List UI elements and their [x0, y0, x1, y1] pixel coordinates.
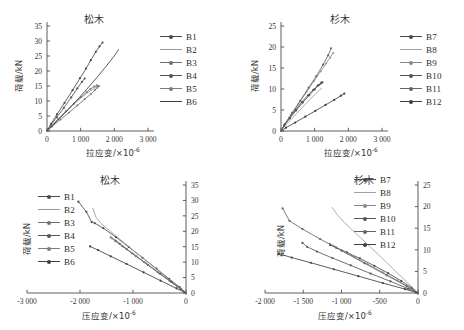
series-marker-B12	[285, 127, 287, 129]
y-tick-label: 25	[191, 212, 199, 221]
legend-item-B2[interactable]: B2	[160, 43, 197, 56]
series-marker-B10	[369, 272, 371, 274]
series-marker-B6	[97, 249, 99, 251]
legend-swatch-icon-B11	[400, 84, 422, 93]
legend-item-B5[interactable]: B5	[160, 82, 197, 95]
y-tick-label: 15	[423, 224, 431, 233]
series-marker-B4	[84, 77, 86, 79]
legend-item-B4[interactable]: B4	[160, 69, 197, 82]
y-tick-label: 0	[272, 127, 276, 136]
y-tick-label: 30	[34, 37, 42, 46]
legend-bottom-right: B7B8B9B10B11B12	[354, 173, 396, 251]
series-marker-B12	[357, 275, 359, 277]
legend-item-B10[interactable]: B10	[354, 212, 396, 225]
series-marker-B9	[325, 62, 327, 64]
y-tick-label: 20	[34, 67, 42, 76]
y-tick-label: 30	[191, 196, 199, 205]
series-marker-B1	[63, 102, 65, 104]
legend-label: B3	[64, 218, 75, 228]
series-marker-B3	[60, 119, 62, 121]
series-marker-B1	[85, 211, 87, 213]
legend-swatch-icon-B4	[160, 71, 182, 80]
legend-item-B11[interactable]: B11	[354, 225, 396, 238]
plot-area-bottom-right: -2 000-1 500-1 000-50000510152025	[232, 165, 464, 330]
y-tick-label: 35	[191, 181, 199, 190]
series-marker-B5	[86, 91, 88, 93]
y-axis-label-top-left: 荷载/kN	[12, 60, 24, 92]
series-marker-B1	[102, 227, 104, 229]
legend-item-B9[interactable]: B9	[400, 56, 442, 69]
x-axis-label-text: 压应变/×10	[318, 311, 366, 321]
x-axis-label-bottom-right: 压应变/×10-6	[318, 309, 372, 321]
legend-item-B4[interactable]: B4	[38, 229, 75, 242]
x-axis-label-exponent: -6	[366, 309, 372, 316]
series-marker-B3	[90, 93, 92, 95]
legend-swatch-icon-B2	[38, 205, 60, 214]
legend-swatch-icon-B3	[160, 58, 182, 67]
legend-item-B12[interactable]: B12	[400, 95, 442, 108]
series-marker-B4	[81, 81, 83, 83]
series-marker-B6	[126, 263, 128, 265]
legend-label: B9	[380, 201, 391, 211]
legend-item-B1[interactable]: B1	[38, 190, 75, 203]
legend-item-B12[interactable]: B12	[354, 238, 396, 251]
legend-item-B8[interactable]: B8	[400, 43, 442, 56]
series-line-B8	[281, 88, 322, 131]
series-marker-B5	[143, 261, 145, 263]
x-axis-label-top-left: 拉应变/×10-6	[86, 146, 140, 158]
legend-item-B6[interactable]: B6	[160, 95, 197, 108]
x-tick-label: 0	[45, 135, 49, 144]
series-marker-B10	[316, 250, 318, 252]
legend-swatch-icon-B9	[400, 58, 422, 67]
x-tick-label: 0	[184, 297, 188, 306]
legend-item-B1[interactable]: B1	[160, 30, 197, 43]
series-marker-B12	[324, 104, 326, 106]
legend-item-B5[interactable]: B5	[38, 242, 75, 255]
series-marker-B1	[79, 77, 81, 79]
series-marker-B1	[91, 221, 93, 223]
legend-label: B12	[380, 240, 396, 250]
x-tick-label: -2 000	[255, 297, 275, 306]
x-axis-label-exponent: -6	[130, 309, 136, 316]
legend-item-B8[interactable]: B8	[354, 186, 396, 199]
series-line-B12	[279, 254, 418, 293]
legend-label: B8	[380, 188, 391, 198]
legend-item-B11[interactable]: B11	[400, 82, 442, 95]
series-line-B2	[93, 208, 186, 293]
series-marker-B11	[291, 112, 293, 114]
legend-item-B7[interactable]: B7	[400, 30, 442, 43]
legend-item-B2[interactable]: B2	[38, 203, 75, 216]
x-tick-label: 2 000	[106, 135, 123, 144]
x-tick-label: 2 000	[340, 135, 357, 144]
legend-item-B6[interactable]: B6	[38, 255, 75, 268]
series-marker-B12	[310, 262, 312, 264]
legend-item-B3[interactable]: B3	[160, 56, 197, 69]
series-marker-B7	[400, 280, 402, 282]
legend-item-B10[interactable]: B10	[400, 69, 442, 82]
legend-item-B7[interactable]: B7	[354, 173, 396, 186]
series-marker-B1	[85, 68, 87, 70]
legend-swatch-icon-B3	[38, 218, 60, 227]
series-marker-B4	[56, 116, 58, 118]
series-marker-B6	[143, 271, 145, 273]
plot-area-bottom-left: -3 000-2 000-1 000005101520253035	[0, 165, 232, 330]
y-tick-label: 10	[423, 246, 431, 255]
y-tick-label: 5	[272, 106, 276, 115]
legend-label: B4	[186, 71, 197, 81]
x-tick-label: -3 000	[17, 297, 37, 306]
legend-item-B9[interactable]: B9	[354, 199, 396, 212]
series-marker-B10	[306, 246, 308, 248]
series-marker-B3	[98, 85, 100, 87]
series-marker-B5	[93, 86, 95, 88]
series-marker-B1	[95, 51, 97, 53]
series-marker-B11	[322, 64, 324, 66]
x-axis-label-text: 压应变/×10	[82, 311, 130, 321]
series-marker-B11	[299, 100, 301, 102]
chart-panel-bottom-right: -2 000-1 500-1 000-50000510152025 杉木 荷载/…	[232, 165, 464, 330]
series-marker-B12	[404, 288, 406, 290]
legend-item-B3[interactable]: B3	[38, 216, 75, 229]
legend-label: B1	[186, 32, 197, 42]
series-marker-B6	[110, 255, 112, 257]
y-tick-label: 15	[191, 243, 199, 252]
series-marker-B12	[294, 122, 296, 124]
